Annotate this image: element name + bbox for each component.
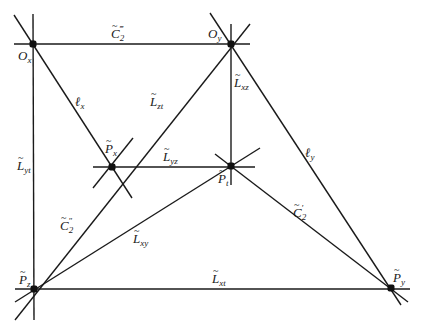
point-pt (228, 163, 235, 170)
point-ox (30, 41, 37, 48)
tilde-accent: ~ (235, 69, 241, 80)
tilde-accent: ~ (164, 143, 170, 154)
tilde-accent: ~ (134, 225, 140, 236)
labels-layer: Lyt~C2‴~ℓxLzt~Lxz~ℓyLyz~C2′~Lxy~Lxt~C2″~… (16, 20, 405, 289)
tilde-accent: ~ (112, 20, 118, 31)
line-label-l-y: ℓy (305, 145, 314, 162)
tilde-accent: ~ (106, 135, 112, 146)
tilde-accent: ~ (219, 165, 225, 176)
line-l-yt (33, 14, 34, 320)
point-px (109, 164, 116, 171)
point-py (388, 285, 395, 292)
tilde-accent: ~ (294, 199, 300, 210)
tilde-accent: ~ (151, 88, 157, 99)
geometry-diagram: Lyt~C2‴~ℓxLzt~Lxz~ℓyLyz~C2′~Lxy~Lxt~C2″~… (0, 0, 422, 329)
point-label-ox: Ox (18, 48, 31, 65)
tilde-accent: ~ (394, 264, 400, 275)
tilde-accent: ~ (18, 152, 24, 163)
point-oy (228, 41, 235, 48)
point-pz (31, 286, 38, 293)
line-label-l-x: ℓx (75, 94, 84, 111)
line-aux-px (93, 138, 133, 188)
tilde-accent: ~ (213, 265, 219, 276)
line-c2-prime (215, 154, 408, 302)
tilde-accent: ~ (61, 212, 67, 223)
tilde-accent: ~ (20, 266, 26, 277)
